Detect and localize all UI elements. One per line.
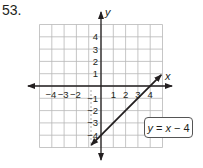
x-tick-label: 2 (123, 89, 128, 100)
x-tick-label: −2 (70, 89, 81, 100)
line-y-equals-x-minus-4 (126, 75, 161, 110)
y-tick-label: −3 (87, 117, 98, 128)
y-axis-label: y (104, 6, 112, 18)
equation-rest: − 4 (171, 122, 190, 134)
x-tick-label: 4 (148, 89, 153, 100)
y-tick-label: 4 (93, 31, 98, 42)
x-tick-label: −3 (58, 89, 69, 100)
y-tick-label: −1 (87, 93, 98, 104)
y-tick-label: 3 (93, 44, 98, 55)
coordinate-plane: −4−3−212344321−1−2−3−4 y x (0, 0, 203, 168)
x-axis-label: x (164, 70, 171, 82)
x-tick-label: −4 (45, 89, 56, 100)
y-tick-label: 1 (93, 68, 98, 79)
equation-label: y = x − 4 (144, 117, 193, 138)
x-tick-label: 1 (111, 89, 116, 100)
equation-equals: = (153, 122, 166, 134)
y-tick-label: −2 (87, 105, 98, 116)
y-tick-label: 2 (93, 56, 98, 67)
